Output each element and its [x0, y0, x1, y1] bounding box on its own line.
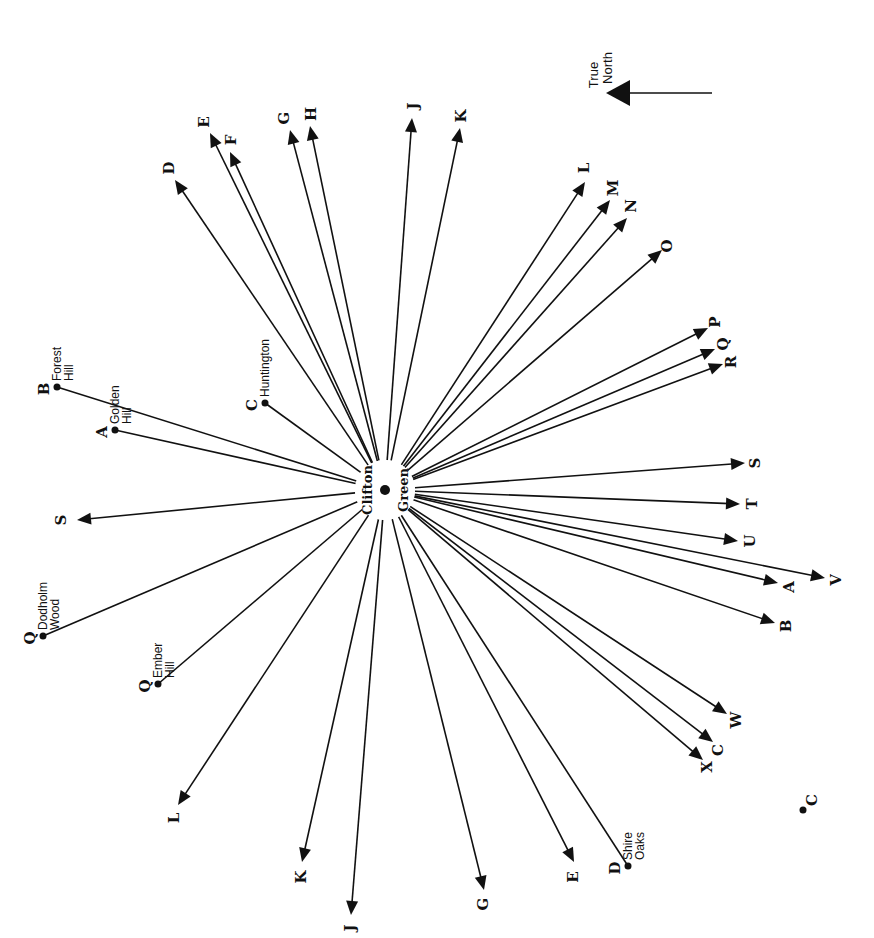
- isolated-points: C: [800, 794, 822, 814]
- ray-line: [304, 519, 378, 852]
- north-label-line1: True: [586, 62, 601, 88]
- station-point-icon: [262, 400, 269, 407]
- station-point-icon: [625, 863, 632, 870]
- station-letter: A: [93, 426, 111, 439]
- arrowhead-icon: [288, 130, 300, 145]
- station-shire: DShireOaks: [401, 515, 647, 874]
- ray-k: K: [292, 519, 378, 883]
- ray-j: J: [387, 102, 422, 460]
- ray-n: N: [405, 199, 640, 468]
- station-forest: BForestHill: [35, 346, 356, 481]
- ray-s: S: [415, 458, 764, 488]
- arrowhead-icon: [726, 497, 740, 509]
- ray-label: F: [222, 134, 240, 145]
- ray-f: F: [222, 134, 372, 462]
- incoming-sightlines: BForestHillAGoldenHillCHuntingtonQDodhol…: [21, 339, 647, 875]
- ray-label: S: [746, 458, 764, 469]
- ray-label: S: [52, 515, 70, 526]
- ray-p: P: [412, 316, 724, 476]
- ray-line: [392, 519, 481, 880]
- ray-q: Q: [413, 337, 732, 478]
- arrowhead-icon: [178, 790, 191, 805]
- arrowhead-icon: [708, 363, 723, 374]
- center-point-icon: [380, 485, 390, 495]
- ray-line: [183, 515, 368, 797]
- station-letter: Q: [21, 631, 39, 644]
- ray-label: J: [404, 102, 422, 111]
- arrowhead-icon: [731, 458, 745, 470]
- ray-line: [405, 225, 620, 467]
- ray-label: L: [165, 812, 183, 823]
- station-point-icon: [112, 427, 119, 434]
- ray-label: G: [474, 898, 492, 911]
- ray-line: [410, 506, 719, 708]
- ray-label: O: [658, 239, 676, 252]
- ray-line: [399, 517, 570, 853]
- ray-label: G: [275, 112, 293, 125]
- ray-line: [234, 161, 372, 463]
- arrowhead-icon: [760, 613, 775, 624]
- ray-line: [391, 138, 458, 461]
- ray-label: B: [777, 620, 795, 633]
- ray-line: [352, 520, 383, 905]
- ray-l: L: [401, 162, 593, 465]
- arrowhead-icon: [712, 701, 727, 714]
- ray-r: R: [413, 355, 740, 479]
- ray-line: [87, 493, 355, 519]
- sightline: [158, 509, 362, 684]
- arrowhead-icon: [307, 126, 319, 141]
- station-dodholm: QDodholmWood: [21, 502, 357, 645]
- arrowhead-icon: [77, 513, 92, 525]
- sightline: [115, 430, 356, 483]
- ray-m: M: [403, 180, 622, 467]
- ray-label: N: [622, 199, 640, 213]
- ray-label: K: [292, 870, 310, 884]
- ray-e: E: [195, 116, 372, 463]
- true-north-indicator: True North: [586, 52, 712, 106]
- ray-w: W: [410, 506, 745, 729]
- station-name-line2: Wood: [48, 599, 62, 630]
- station-point-icon: [155, 681, 162, 688]
- center-station: Clifton Green: [355, 460, 415, 520]
- ray-label: V: [827, 574, 845, 587]
- arrowhead-icon: [723, 533, 738, 545]
- sightline: [265, 403, 361, 472]
- ray-line: [409, 508, 705, 736]
- ray-o: O: [408, 239, 676, 470]
- ray-label: Q: [714, 337, 732, 350]
- arrowhead-icon: [597, 200, 610, 215]
- ray-s: S: [52, 493, 355, 526]
- ray-line: [408, 257, 655, 471]
- north-label-line2: North: [600, 52, 615, 84]
- ray-label: D: [160, 161, 178, 174]
- ray-label: E: [195, 116, 213, 127]
- ray-line: [413, 367, 714, 479]
- ray-b: B: [413, 500, 795, 633]
- ray-label: C: [709, 744, 727, 756]
- station-letter: C: [243, 399, 261, 411]
- radial-bearing-diagram: DEFGHJKLMNOPQRSTUVABWCXEGJKLS BForestHil…: [0, 0, 874, 938]
- ray-label: R: [722, 355, 740, 368]
- arrowhead-icon: [810, 569, 825, 581]
- ray-label: W: [727, 710, 745, 729]
- station-name-line2: Hill: [62, 364, 76, 381]
- ray-label: E: [564, 871, 582, 882]
- arrowhead-icon: [405, 118, 417, 132]
- station-letter: Q: [136, 679, 154, 692]
- ray-h: H: [302, 107, 379, 461]
- ray-x: X: [408, 509, 716, 772]
- station-name-line2: Hill: [163, 661, 177, 678]
- ray-line: [181, 188, 369, 465]
- ray-line: [415, 464, 735, 488]
- arrowhead-icon: [299, 847, 311, 862]
- ray-label: K: [452, 109, 470, 123]
- ray-j: J: [341, 520, 383, 934]
- ray-label: M: [604, 180, 622, 197]
- ray-label: H: [302, 107, 320, 121]
- ray-label: A: [780, 581, 798, 594]
- station-point-icon: [54, 384, 61, 391]
- arrowhead-icon: [451, 128, 463, 143]
- center-label-line1: Clifton: [360, 464, 375, 514]
- station-point-icon: [40, 633, 47, 640]
- ray-label: U: [741, 534, 759, 547]
